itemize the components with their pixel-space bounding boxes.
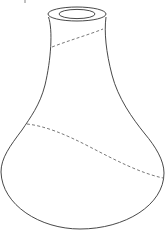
lower-dashed-section: [27, 124, 163, 178]
rim-inner: [59, 9, 95, 18]
vase-outline: [1, 17, 164, 229]
upper-dashed-section: [52, 29, 103, 47]
vase-diagram: [0, 0, 167, 252]
